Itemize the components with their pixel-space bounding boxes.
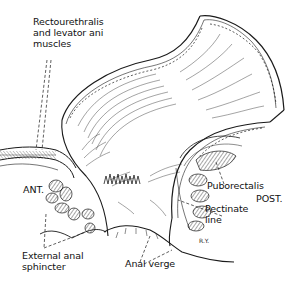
levator-ani-band bbox=[0, 147, 76, 178]
label-pectinate-line: Pectinate line bbox=[205, 203, 248, 225]
leader-lines bbox=[36, 60, 224, 264]
label-anterior: ANT. bbox=[23, 184, 44, 195]
label-anal-verge: Anal verge bbox=[125, 258, 175, 269]
external-sphincter-anterior bbox=[46, 180, 95, 233]
label-rectourethralis-levator-ani: Rectourethralis and levator ani muscles bbox=[33, 16, 104, 49]
label-external-anal-sphincter: External anal sphincter bbox=[22, 250, 83, 272]
label-puborectalis: Puborectalis bbox=[207, 180, 264, 191]
label-posterior: POST. bbox=[256, 193, 282, 204]
artist-signature: R.Y. bbox=[199, 237, 209, 244]
